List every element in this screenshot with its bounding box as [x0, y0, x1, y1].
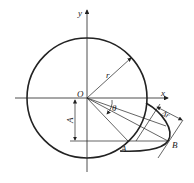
axes — [15, 10, 168, 172]
label-point-B: B — [172, 140, 178, 150]
label-radius: r — [106, 70, 110, 80]
label-delta-r: Δr — [159, 108, 172, 120]
tangent-line — [158, 120, 183, 158]
label-x-axis: x — [160, 88, 165, 98]
label-origin: O — [77, 89, 84, 99]
line-O-to-B — [87, 98, 168, 141]
line-O-ray — [87, 98, 166, 126]
cam-diagram: y x O r θ A Δr A B — [0, 0, 194, 183]
label-point-A: A — [120, 144, 127, 154]
label-offset: A — [65, 117, 75, 124]
label-theta: θ — [112, 103, 117, 113]
line-O-to-A — [87, 98, 128, 141]
label-y-axis: y — [77, 8, 82, 18]
